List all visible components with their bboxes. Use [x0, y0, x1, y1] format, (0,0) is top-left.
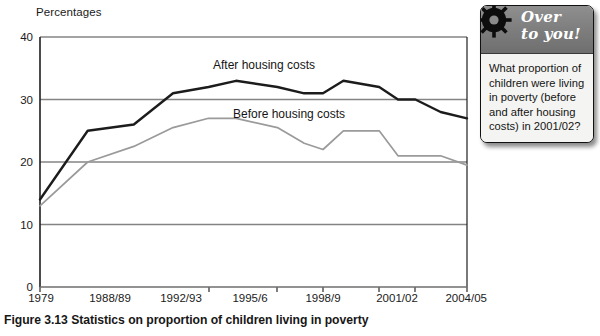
x-tick-label: 2001/02	[376, 292, 418, 304]
gear-icon	[480, 5, 514, 40]
y-tick-label: 40	[20, 31, 33, 43]
y-axis-title: Percentages	[36, 6, 102, 18]
x-tick-label: 1992/93	[160, 292, 202, 304]
y-axis-tick-labels: 40 30 20 10 0	[0, 0, 33, 336]
over-to-you-callout: Over to you! What proportion of children…	[480, 5, 594, 143]
x-tick-label: 1988/89	[89, 292, 131, 304]
callout-heading: Over to you!	[521, 9, 587, 43]
callout-header: Over to you!	[481, 6, 593, 54]
callout-question: What proportion of children were living …	[489, 61, 586, 134]
y-tick-label: 30	[20, 94, 33, 106]
y-tick-label: 20	[20, 156, 33, 168]
x-tick-label: 1998/9	[305, 292, 340, 304]
series-line	[40, 81, 467, 200]
callout-heading-line1: Over	[521, 8, 561, 26]
chart-canvas	[40, 37, 467, 287]
plot-area	[40, 37, 467, 287]
series-label-after-housing-costs: After housing costs	[213, 58, 315, 72]
figure-caption: Figure 3.13 Statistics on proportion of …	[4, 313, 368, 327]
x-tick-label: 1995/6	[232, 292, 267, 304]
x-tick-label: 2004/05	[445, 292, 487, 304]
callout-heading-line2: to you!	[521, 25, 581, 43]
x-tick-label: 1979	[28, 292, 54, 304]
series-label-before-housing-costs: Before housing costs	[233, 107, 345, 121]
y-tick-label: 10	[20, 219, 33, 231]
callout-body: What proportion of children were living …	[481, 54, 593, 142]
